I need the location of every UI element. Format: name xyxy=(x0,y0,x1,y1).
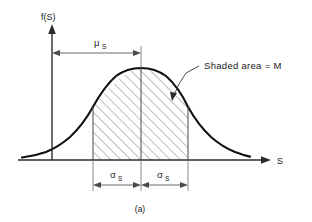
sigma-right-start-arrowhead-icon xyxy=(141,182,149,188)
mu-left-arrowhead-icon xyxy=(52,50,60,56)
mu-label: μ S xyxy=(94,37,107,50)
sigma-right-label: σ S xyxy=(157,169,170,182)
mu-label-symbol: μ xyxy=(94,37,99,48)
mu-right-arrowhead-icon xyxy=(133,50,141,56)
mu-dimension xyxy=(52,46,141,68)
sigma-left-label-symbol: σ xyxy=(110,169,116,180)
normal-distribution-figure: f(S) S μ S σ S σ S Shaded area = M (a) xyxy=(0,0,312,222)
y-axis-label: f(S) xyxy=(41,12,56,22)
x-axis-label: S xyxy=(277,156,283,166)
sigma-right-end-arrowhead-icon xyxy=(180,182,188,188)
sigma-left-dimension xyxy=(93,182,141,188)
sigma-left-end-arrowhead-icon xyxy=(133,182,141,188)
y-axis-arrowhead-icon xyxy=(48,24,56,34)
sigma-right-label-symbol: σ xyxy=(157,169,163,180)
sigma-right-dimension xyxy=(141,182,188,188)
sigma-right-label-subscript: S xyxy=(165,175,170,182)
sigma-left-start-arrowhead-icon xyxy=(93,182,101,188)
x-axis-arrowhead-icon xyxy=(261,156,271,164)
figure-container: f(S) S μ S σ S σ S Shaded area = M (a) xyxy=(0,0,312,222)
mu-label-subscript: S xyxy=(102,43,107,50)
sigma-left-label-subscript: S xyxy=(118,175,123,182)
figure-caption: (a) xyxy=(135,204,146,214)
sigma-left-label: σ S xyxy=(110,169,123,182)
shaded-area-annotation: Shaded area = M xyxy=(204,60,282,71)
